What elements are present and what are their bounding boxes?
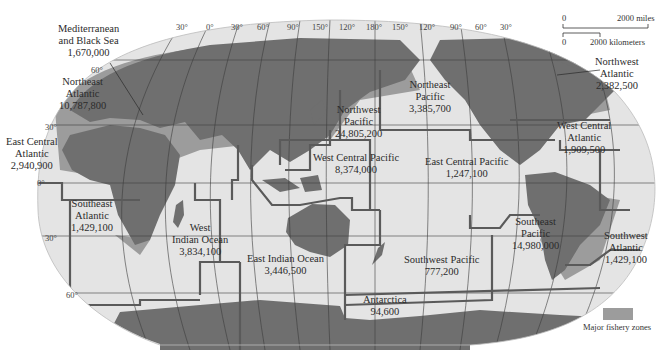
longitude-label: 90° bbox=[450, 22, 462, 32]
zone-label-east-central-atlantic: East Central Atlantic 2,940,900 bbox=[6, 136, 58, 172]
scale-miles-end: 2000 miles bbox=[617, 13, 655, 23]
longitude-label: 30° bbox=[231, 22, 243, 32]
latitude-label: 0° bbox=[37, 178, 45, 188]
zone-label-antarctica: Antarctica 94,600 bbox=[363, 294, 407, 318]
longitude-label: 150° bbox=[392, 22, 408, 32]
longitude-label: 60° bbox=[257, 22, 269, 32]
fishery-zone-swatch bbox=[603, 308, 633, 320]
scale-km-start: 0 bbox=[562, 37, 566, 47]
longitude-label: 120° bbox=[419, 22, 435, 32]
scale-bar-lines bbox=[562, 24, 657, 38]
zone-label-northeast-atlantic: Northeast Atlantic 10,787,800 bbox=[59, 76, 106, 112]
longitude-label: 30° bbox=[176, 22, 188, 32]
zone-label-west-central-atlantic: West Central Atlantic 1,909,500 bbox=[557, 120, 611, 156]
longitude-label: 60° bbox=[475, 22, 487, 32]
latitude-label: 60° bbox=[66, 290, 78, 300]
longitude-label: 90° bbox=[287, 22, 299, 32]
scale-miles-start: 0 bbox=[562, 13, 566, 23]
longitude-label: 120° bbox=[339, 22, 355, 32]
longitude-label: 180° bbox=[366, 22, 382, 32]
latitude-label: 30° bbox=[45, 122, 57, 132]
zone-label-southeast-pacific: Southeast Pacific 14,980,000 bbox=[512, 216, 559, 252]
longitude-label: 150° bbox=[312, 22, 328, 32]
zone-label-northeast-pacific: Northeast Pacific 3,385,700 bbox=[409, 79, 451, 115]
zone-label-west-indian-ocean: West Indian Ocean 3,834,100 bbox=[172, 222, 228, 258]
zone-label-southwest-pacific: Southwest Pacific 777,200 bbox=[404, 254, 480, 278]
longitude-label: 0° bbox=[206, 22, 214, 32]
latitude-label: 30° bbox=[45, 233, 57, 243]
latitude-label: 60° bbox=[91, 65, 103, 75]
zone-label-mediterranean: Mediterranean and Black Sea 1,670,000 bbox=[58, 23, 119, 59]
zone-label-east-indian-ocean: East Indian Ocean 3,446,500 bbox=[247, 253, 324, 277]
zone-label-southeast-atlantic: Southeast Atlantic 1,429,100 bbox=[71, 198, 113, 234]
scale-bar: 0 2000 miles 0 2000 kilometers bbox=[562, 13, 662, 49]
zone-label-southwest-atlantic: Southwest Atlantic 1,429,100 bbox=[604, 230, 648, 266]
zone-label-northwest-atlantic: Northwest Atlantic 2,382,500 bbox=[595, 56, 639, 92]
legend-label: Major fishery zones bbox=[583, 322, 651, 332]
longitude-label: 30° bbox=[500, 22, 512, 32]
zone-label-west-central-pacific: West Central Pacific 8,374,000 bbox=[313, 152, 399, 176]
scale-km-end: 2000 kilometers bbox=[590, 37, 645, 47]
zone-label-northwest-pacific: Northwest Pacific 24,805,200 bbox=[335, 104, 382, 140]
zone-label-east-central-pacific: East Central Pacific 1,247,100 bbox=[425, 156, 508, 180]
